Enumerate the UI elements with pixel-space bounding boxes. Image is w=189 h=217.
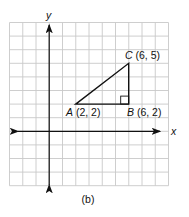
- point-c-label: C (6, 5): [125, 49, 160, 61]
- point-b-label: B (6, 2): [127, 106, 161, 118]
- point-a-label: A (2, 2): [65, 106, 100, 118]
- coordinate-plane-figure: x y A (2, 2) B (6, 2) C (6, 5) (b): [0, 0, 189, 217]
- x-axis-label: x: [170, 125, 177, 137]
- right-angle-marker: [121, 96, 129, 104]
- y-axis-label: y: [45, 9, 52, 21]
- figure-caption: (b): [82, 193, 95, 205]
